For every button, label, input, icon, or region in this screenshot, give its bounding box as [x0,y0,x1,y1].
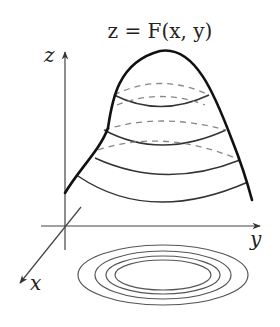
x-axis-label: x [30,271,41,295]
surface-outline [65,51,252,200]
y-axis-label: y [249,227,262,251]
z-axis-label: z [43,43,55,67]
contour-map [78,245,248,305]
surface-hidden-curves [98,84,240,161]
contour-ellipse-outer [78,245,248,305]
surface-diagram: z = F(x, y) z y x [0,0,280,327]
contour-ellipse-inner [115,260,211,290]
contour-ellipse-3 [106,256,220,294]
diagram-title: z = F(x, y) [108,19,213,43]
